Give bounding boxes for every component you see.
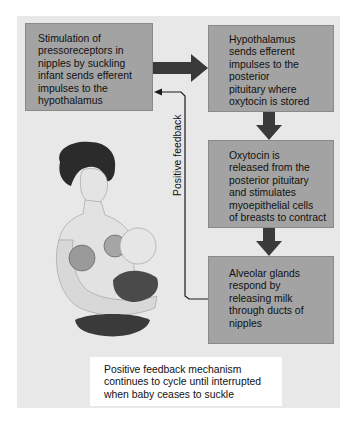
- feedback-label: Positive feedback: [172, 115, 183, 196]
- arrow-right-icon: [153, 54, 208, 82]
- arrow-down-icon: [256, 228, 282, 256]
- cycle-note: Positive feedback mechanism continues to…: [90, 357, 282, 406]
- arrow-down-icon: [256, 112, 282, 140]
- mother-infant-illustration: [35, 140, 170, 340]
